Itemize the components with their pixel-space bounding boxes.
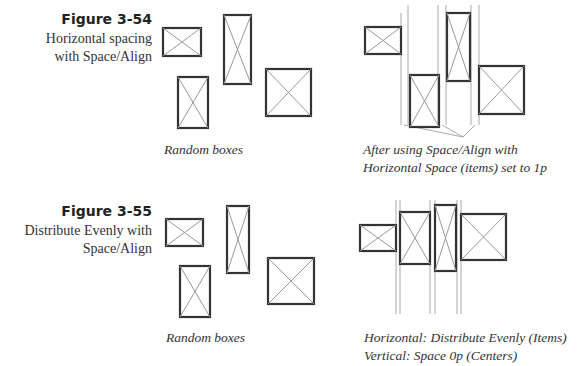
fig54-right-caption-line-2: Horizontal Space (items) set to 1p xyxy=(363,159,547,177)
fig54-spaced-box-2 xyxy=(410,75,439,127)
fig55-distributed-box-4 xyxy=(461,214,506,260)
fig55-right-caption-line-1: Horizontal: Distribute Evenly (Items) xyxy=(364,329,567,347)
fig54-random-box-4 xyxy=(266,69,311,116)
fig54-random-box-2 xyxy=(224,15,251,84)
fig55-random-box-3 xyxy=(180,266,210,317)
fig55-random-box-2 xyxy=(227,206,249,273)
fig55-random-box-1 xyxy=(166,219,203,246)
fig55-distributed-box-2 xyxy=(400,212,430,264)
fig55-distributed-box-3 xyxy=(435,205,456,271)
diagram-artwork: .bx{fill:none;stroke:#333;stroke-width:2… xyxy=(0,0,580,366)
fig54-left-caption: Random boxes xyxy=(164,141,243,159)
fig54-random-box-3 xyxy=(178,77,208,128)
fig55-left-caption: Random boxes xyxy=(166,329,245,347)
fig54-spaced-box-1 xyxy=(365,27,401,54)
fig55-right-caption-line-2: Vertical: Space 0p (Centers) xyxy=(364,347,517,365)
fig55-distributed-box-1 xyxy=(360,225,396,251)
fig54-right-caption-line-1: After using Space/Align with xyxy=(363,141,518,159)
fig55-random-box-4 xyxy=(268,258,314,304)
fig54-spaced-box-4 xyxy=(479,66,524,114)
fig54-random-box-1 xyxy=(163,28,201,56)
fig54-spaced-box-3 xyxy=(447,13,470,81)
